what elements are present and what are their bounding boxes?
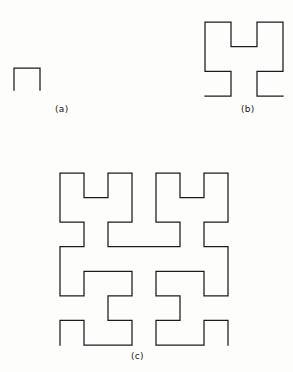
figure-label-c: (c) — [131, 351, 144, 361]
figure-container: (a) (b) (c) — [0, 0, 293, 372]
curve-path-b — [205, 22, 283, 96]
curve-path-c — [60, 173, 228, 345]
curve-path-a — [14, 68, 40, 90]
hilbert-curve-figure — [0, 0, 293, 372]
figure-label-b: (b) — [241, 104, 255, 114]
figure-label-a: (a) — [55, 104, 68, 114]
